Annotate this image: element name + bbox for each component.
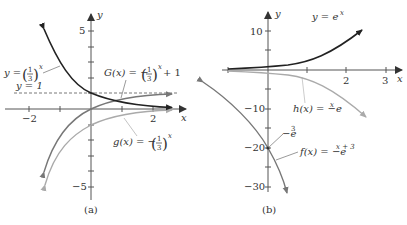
svg-text:x: x <box>168 132 172 140</box>
svg-text:x: x <box>39 63 43 71</box>
label-neg-e-cubed: −e 3 <box>282 125 296 139</box>
x-tick-label: 3 <box>382 75 388 86</box>
y-tick-label: −5 <box>72 181 87 192</box>
x-axis-label: x <box>181 112 187 123</box>
x-axis-label: x <box>397 73 403 84</box>
svg-text:x: x <box>340 9 344 17</box>
label-f: f(x) = −e x + 3 <box>276 143 355 160</box>
x-tick-label: −2 <box>22 113 37 124</box>
svg-text:(: ( <box>141 66 147 84</box>
svg-text:y =: y = <box>3 67 21 78</box>
y-tick-label: −20 <box>244 142 265 153</box>
svg-text:3: 3 <box>291 125 295 133</box>
y-tick-label: −30 <box>244 181 265 192</box>
svg-text:1: 1 <box>157 135 161 143</box>
svg-text:(: ( <box>22 66 28 84</box>
function-graphs-figure: x y −2 2 5 −5 y = 1 <box>0 0 407 225</box>
curve-exp-x <box>228 30 362 69</box>
y-axis-label: y <box>274 8 281 19</box>
y-axis-label: y <box>96 9 103 20</box>
label-one-third-pow-x: y = ( 1 3 ) x <box>3 63 60 84</box>
caption-b: (b) <box>262 204 276 215</box>
label-exp-x: y = e x <box>311 9 344 22</box>
svg-text:1: 1 <box>147 66 151 74</box>
y-tick-label: 5 <box>79 25 85 36</box>
svg-text:g(x) = −: g(x) = − <box>113 136 156 147</box>
svg-text:y = e: y = e <box>311 11 338 22</box>
x-tick-label: 2 <box>343 75 349 86</box>
y-tick-label: −10 <box>244 103 265 114</box>
svg-text:h(x) = −e: h(x) = −e <box>293 103 342 114</box>
panel-a: x y −2 2 5 −5 y = 1 <box>3 9 187 215</box>
svg-text:3: 3 <box>157 144 161 152</box>
x-tick-label: 2 <box>150 113 156 124</box>
svg-text:): ) <box>33 66 39 84</box>
svg-text:1: 1 <box>28 66 32 74</box>
panel-b: x y 2 3 10 −10 −20 −30 <box>203 8 403 215</box>
y-tick-label: 10 <box>250 26 263 37</box>
label-g: g(x) = − ( 1 3 ) x <box>113 118 172 153</box>
svg-text:x + 3: x + 3 <box>336 143 355 151</box>
svg-text:): ) <box>162 135 168 153</box>
svg-text:3: 3 <box>28 75 32 83</box>
svg-text:): ) <box>152 66 158 84</box>
svg-text:+ 1: + 1 <box>163 67 181 78</box>
label-h: h(x) = −e x <box>293 77 342 114</box>
svg-text:(: ( <box>151 135 157 153</box>
svg-text:3: 3 <box>147 75 151 83</box>
svg-text:x: x <box>330 101 334 109</box>
svg-text:x: x <box>158 63 162 71</box>
curve-f <box>203 82 287 193</box>
caption-a: (a) <box>84 204 98 215</box>
